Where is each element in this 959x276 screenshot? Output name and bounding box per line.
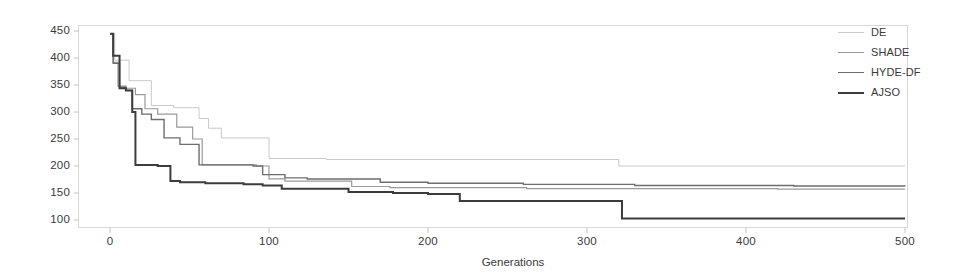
y-tick-label: 100 [26,213,70,225]
x-tick-label: 400 [716,235,776,247]
series-line-de [110,34,905,166]
legend-label-hyde-df: HYDE-DF [871,66,921,78]
chart-svg-layer [0,0,959,276]
legend-item-ajso[interactable]: AJSO [838,82,956,102]
x-tick-label: 200 [398,235,458,247]
series-group [110,34,905,219]
y-tick-label: 300 [26,105,70,117]
series-line-ajso [110,34,905,219]
legend-swatch-de [838,27,864,37]
tickmark-group [74,31,905,233]
legend-label-ajso: AJSO [871,86,900,98]
y-tick-label: 450 [26,24,70,36]
x-tick-label: 0 [80,235,140,247]
convergence-chart: 450400350300250200150100 010020030040050… [0,0,959,276]
x-axis-title: Generations [413,256,613,268]
legend-swatch-shade [838,47,864,57]
legend-swatch-hyde-df [838,67,864,77]
legend-swatch-ajso [838,87,864,97]
y-tick-label: 350 [26,78,70,90]
x-tick-label: 100 [239,235,299,247]
y-tick-label: 200 [26,159,70,171]
x-tick-label: 300 [557,235,617,247]
legend-item-de[interactable]: DE [838,22,956,42]
legend-item-hyde-df[interactable]: HYDE-DF [838,62,956,82]
legend-label-shade: SHADE [871,46,909,58]
x-tick-label: 500 [875,235,935,247]
legend-label-de: DE [871,26,886,38]
series-line-hyde-df [110,34,905,187]
y-tick-label: 250 [26,132,70,144]
y-tick-label: 150 [26,186,70,198]
legend-item-shade[interactable]: SHADE [838,42,956,62]
y-tick-label: 400 [26,51,70,63]
chart-legend: DE SHADE HYDE-DF AJSO [838,22,956,102]
